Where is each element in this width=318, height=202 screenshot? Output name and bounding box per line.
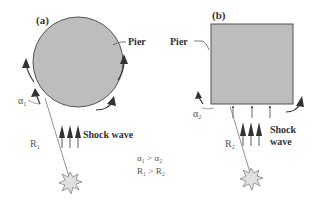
reflected-arrows xyxy=(233,106,270,118)
shock-label-b-line2: wave xyxy=(270,136,292,147)
pier-label-b: Pier xyxy=(170,36,188,47)
shock-wave-pier-diagram: (a) Pier α1 R1 xyxy=(0,0,318,202)
r1-label: R1 xyxy=(30,138,40,150)
panel-a-label: (a) xyxy=(36,14,49,27)
arrowhead-icon xyxy=(195,91,202,99)
relations: α₁ > α₂ R₁ > R₂ xyxy=(137,153,165,176)
r2-label: R2 xyxy=(225,138,235,150)
panel-a: (a) Pier α1 R1 xyxy=(18,14,146,194)
arrowhead-icon xyxy=(31,88,40,97)
distance-line-r1 xyxy=(45,98,70,180)
angle-arc-b xyxy=(202,108,214,109)
shock-label-b-line1: Shock xyxy=(270,124,297,135)
panel-b: (b) Pier α2 R2 xyxy=(170,9,304,190)
pier-label-a: Pier xyxy=(128,36,146,47)
relation-alpha: α₁ > α₂ xyxy=(137,153,162,163)
distance-line-r2 xyxy=(230,106,251,176)
circular-pier xyxy=(33,17,123,107)
arrowhead-icon xyxy=(296,96,304,107)
arrowhead-icon xyxy=(22,58,30,68)
shock-wave-label-a: Shock wave xyxy=(83,129,134,140)
explosion-icon xyxy=(240,168,263,190)
arrowhead-icon xyxy=(107,96,116,106)
explosion-icon xyxy=(59,172,82,194)
panel-b-label: (b) xyxy=(212,9,226,22)
alpha1-label: α1 xyxy=(18,95,26,107)
pier-leader-line-b xyxy=(194,41,209,50)
shock-wave-arrows-b xyxy=(240,122,262,146)
shock-wave-arrows-a xyxy=(59,125,81,148)
alpha2-label: α2 xyxy=(193,108,201,120)
square-pier xyxy=(211,24,293,104)
relation-r: R₁ > R₂ xyxy=(137,166,165,176)
